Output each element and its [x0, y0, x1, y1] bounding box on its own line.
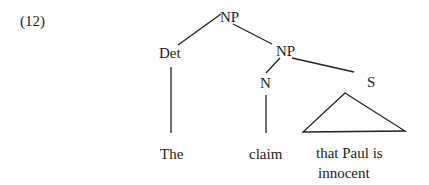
node-n: N [260, 75, 271, 91]
node-det: Det [159, 45, 181, 61]
edge-np-np [233, 24, 272, 44]
leaf-the: The [160, 146, 184, 162]
example-number: (12) [20, 13, 45, 30]
syntax-tree-diagram: (12) NP Det NP N S The claim that Paul i… [0, 0, 429, 185]
node-s: S [367, 74, 375, 90]
leaf-s-line2: innocent [318, 165, 370, 181]
edge-np-det [178, 14, 221, 45]
node-np-root: NP [220, 9, 239, 25]
leaf-s-line1: that Paul is [316, 145, 383, 161]
leaf-claim: claim [249, 146, 283, 162]
edge-np-s [292, 58, 354, 72]
edge-np-n [266, 58, 280, 73]
node-np-2: NP [276, 43, 295, 59]
s-triangle [303, 93, 405, 132]
